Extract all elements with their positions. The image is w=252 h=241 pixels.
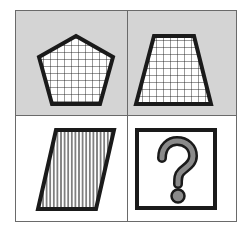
- cell-parallelogram: Parallelogram with vertical lines: [16, 116, 128, 221]
- puzzle-grid: Pentagon with grid pattern Trapezoid wit…: [15, 10, 237, 222]
- parallelogram-lines-icon: [16, 116, 128, 221]
- cell-pentagon: Pentagon with grid pattern: [16, 11, 128, 116]
- cell-question: ?: [128, 116, 236, 221]
- question-mark-icon: [128, 116, 236, 221]
- pentagon-grid-icon: [16, 11, 128, 116]
- trapezoid-grid-icon: [128, 11, 236, 116]
- cell-trapezoid: Trapezoid with grid pattern: [128, 11, 236, 116]
